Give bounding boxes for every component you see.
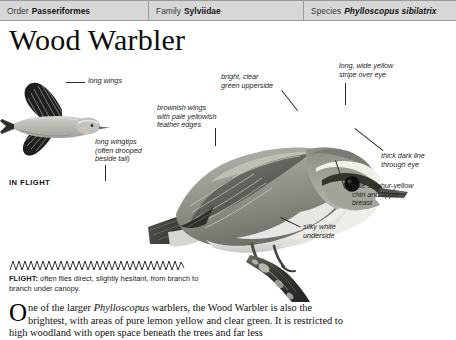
flight-note-text: FLIGHT: often flies direct, slightly hes… <box>9 274 205 295</box>
callout-green-upperside: bright, clear green upperside <box>221 73 273 90</box>
species-value: Phylloscopus sibilatrix <box>344 6 436 16</box>
family-value: Sylviidae <box>184 6 221 16</box>
callout-yellow-stripe: long, wide yellow stripe over eye <box>339 62 393 79</box>
taxonomy-cell-family: Family Sylviidae <box>148 1 303 20</box>
callout-brownish-wings: brownish wings with pale yellowish feath… <box>157 104 216 130</box>
taxonomy-header-bar: Order Passeriformes Family Sylviidae Spe… <box>0 0 456 21</box>
page-title: Wood Warbler <box>9 25 185 55</box>
flight-note-label: FLIGHT: <box>9 274 38 283</box>
description-line1-b: warblers, the Wood Warbler is also <box>149 302 297 313</box>
song-zigzag-graphic <box>9 259 185 272</box>
branch-illustration <box>246 255 310 302</box>
taxonomy-cell-species: Species Phylloscopus sibilatrix <box>303 1 456 20</box>
leader-brownish-wings <box>215 128 216 146</box>
flight-note-block: FLIGHT: often flies direct, slightly hes… <box>9 259 209 295</box>
leader-yellow-stripe <box>345 83 346 105</box>
order-label: Order <box>7 6 29 16</box>
callout-sulphur-chin: pale sulphur-yellow chin and upper breas… <box>352 182 413 208</box>
drop-cap: O <box>9 302 28 323</box>
perched-bird-illustration <box>148 147 408 272</box>
species-label: Species <box>311 6 341 16</box>
flight-illustration <box>0 83 110 156</box>
species-description: One of the larger Phylloscopus warblers,… <box>9 302 349 340</box>
description-line1-a: ne of the larger <box>28 302 94 313</box>
callout-long-wingtips: long wingtips (often drooped beside tail… <box>95 138 142 164</box>
leader-long-wings <box>66 82 85 83</box>
description-genus-italic: Phylloscopus <box>94 302 149 313</box>
flight-note-body: often flies direct, slightly hesitant, f… <box>9 274 198 293</box>
leader-long-wingtips <box>105 165 106 181</box>
in-flight-caption: IN FLIGHT <box>9 178 50 187</box>
order-value: Passeriformes <box>32 6 90 16</box>
callout-silky-underside: silky white underside <box>303 223 336 240</box>
callout-long-wings: long wings <box>88 77 122 86</box>
family-label: Family <box>156 6 181 16</box>
callout-dark-line: thick dark line through eye <box>381 152 425 169</box>
taxonomy-cell-order: Order Passeriformes <box>0 1 148 20</box>
